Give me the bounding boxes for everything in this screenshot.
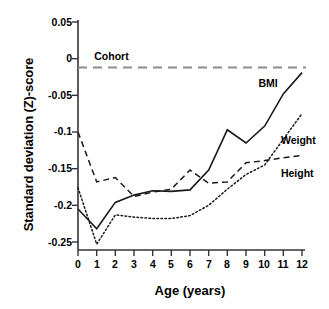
series-annotation-height: Height	[281, 167, 314, 179]
y-tick-marks	[72, 22, 78, 242]
series-line-height	[78, 132, 302, 197]
series-line-bmi	[78, 73, 302, 229]
cohort-annotation: Cohort	[94, 50, 128, 62]
series-annotation-bmi: BMI	[259, 77, 278, 89]
series-line-weight	[78, 114, 302, 245]
chart-figure: Standard deviation (Z)-score Age (years)…	[0, 0, 329, 309]
chart-plot-area	[0, 0, 329, 309]
series-annotation-weight: Weight	[281, 134, 316, 146]
x-tick-marks	[78, 250, 302, 256]
